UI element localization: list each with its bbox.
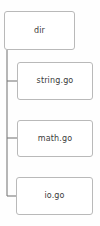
node-string-go[interactable]: string.go [17, 62, 93, 100]
node-string-go-label: string.go [37, 77, 74, 85]
node-dir[interactable]: dir [4, 11, 75, 50]
node-math-go-label: math.go [38, 135, 72, 143]
node-dir-label: dir [34, 27, 45, 35]
node-math-go[interactable]: math.go [17, 120, 93, 157]
node-io-go[interactable]: io.go [16, 177, 93, 215]
diagram-canvas: dir string.go math.go io.go [0, 0, 100, 226]
node-io-go-label: io.go [44, 192, 64, 200]
